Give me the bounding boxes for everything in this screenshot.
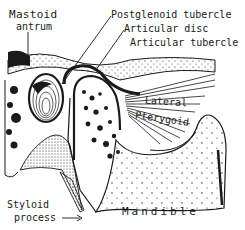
label-mandible: Mandible xyxy=(122,206,199,217)
mandible-shape xyxy=(96,115,226,212)
label-articular-tubercle: Articular tubercle xyxy=(130,38,238,48)
label-postglenoid-tubercle: Postglenoid tubercle xyxy=(111,10,231,20)
anatomy-drawing xyxy=(0,0,245,230)
tmj-diagram: Mastoid antrum Postglenoid tubercle Arti… xyxy=(0,0,245,230)
condyle xyxy=(64,66,140,160)
label-mastoid: Mastoid xyxy=(9,9,57,20)
label-process: process xyxy=(14,213,56,223)
label-articular-disc: Articular disc xyxy=(124,24,208,34)
label-antrum: antrum xyxy=(16,22,52,32)
auditory-meatus xyxy=(29,74,63,122)
label-styloid: Styloid xyxy=(7,200,49,210)
